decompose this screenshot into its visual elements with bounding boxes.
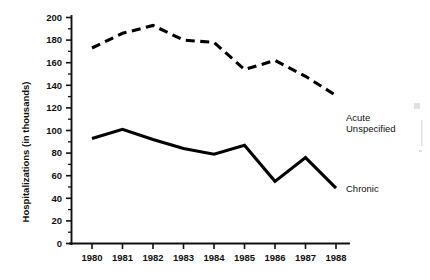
y-axis-title-text: Hospitalizations (in thousands): [20, 82, 31, 223]
y-axis-ticks: [66, 18, 72, 244]
scan-artifact-dot: [419, 150, 422, 152]
x-tick-label-1985: 1985: [234, 252, 256, 263]
y-axis-title: Hospitalizations (in thousands): [20, 82, 31, 223]
scan-artifact-line: [421, 120, 423, 146]
x-tick-label-1981: 1981: [112, 252, 134, 263]
y-tick-label-180: 180: [46, 34, 62, 45]
y-tick-label-160: 160: [46, 57, 62, 68]
y-tick-label-20: 20: [51, 215, 62, 226]
series-label-acute-unspecified: Acute Unspecified: [346, 112, 396, 134]
series-label-chronic: Chronic: [346, 183, 379, 194]
series-line-chronic: [92, 129, 336, 188]
y-tick-label-80: 80: [51, 147, 62, 158]
series-label-acute-line1: Acute: [346, 112, 370, 123]
x-axis-ticks: [92, 244, 336, 249]
y-tick-label-140: 140: [46, 80, 62, 91]
y-tick-label-120: 120: [46, 102, 62, 113]
y-tick-label-0: 0: [57, 238, 62, 249]
x-tick-label-1988: 1988: [325, 252, 346, 263]
x-tick-label-1987: 1987: [295, 252, 316, 263]
x-tick-label-1980: 1980: [81, 252, 102, 263]
scan-artifact-top: [414, 103, 420, 109]
x-tick-label-1986: 1986: [264, 252, 285, 263]
y-tick-label-100: 100: [46, 125, 62, 136]
x-tick-label-1984: 1984: [203, 252, 225, 263]
x-axis-tick-labels: 1980 1981 1982 1983 1984 1985 1986 1987 …: [81, 252, 346, 263]
y-tick-label-60: 60: [51, 170, 62, 181]
x-tick-label-1982: 1982: [142, 252, 163, 263]
line-chart: Hospitalizations (in thousands): [0, 0, 430, 280]
y-axis-tick-labels: 200 180 160 140 120 100 80 60 40 20 0: [46, 12, 62, 249]
x-tick-label-1983: 1983: [173, 252, 194, 263]
y-tick-label-200: 200: [46, 12, 62, 23]
y-tick-label-40: 40: [51, 193, 62, 204]
chart-figure: Hospitalizations (in thousands): [0, 0, 430, 280]
series-line-acute-unspecified: [92, 25, 336, 95]
series-label-acute-line2: Unspecified: [346, 123, 396, 134]
